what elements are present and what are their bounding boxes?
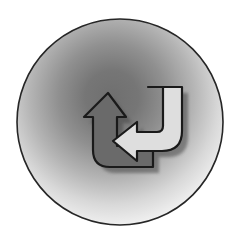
circular-badge-icon — [0, 0, 242, 246]
icon-canvas: Refresh / Swap Cycle Icon — [0, 0, 242, 246]
